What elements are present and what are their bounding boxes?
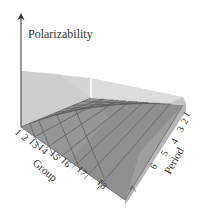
polarizability-3d-diagram: Polarizability 1 2 13 14 15 16 17 18 Gro…	[0, 0, 203, 212]
svg-text:6: 6	[147, 161, 159, 171]
svg-text:3: 3	[174, 124, 186, 134]
svg-text:4: 4	[168, 136, 180, 146]
y-axis-label: Period	[161, 145, 186, 176]
z-axis-label: Polarizability	[28, 27, 93, 41]
